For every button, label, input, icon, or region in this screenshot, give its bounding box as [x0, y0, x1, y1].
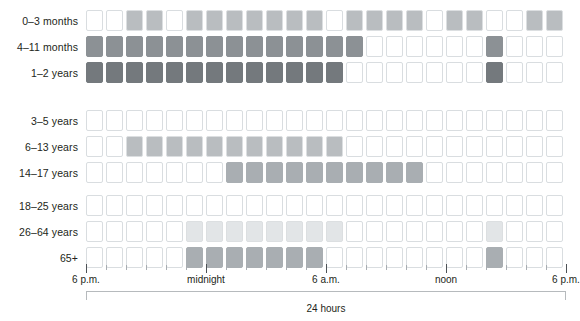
row-label: 3–5 years	[0, 108, 78, 134]
sleep-cell	[486, 162, 503, 183]
row-label: 0–3 months	[0, 8, 78, 34]
axis-tick-minor	[506, 265, 507, 270]
sleep-cell	[486, 36, 503, 57]
sleep-cell	[106, 62, 123, 83]
sleep-cell	[426, 221, 443, 242]
sleep-cell	[506, 195, 523, 216]
sleep-cell	[346, 62, 363, 83]
age-group-infants: 0–3 months4–11 months1–2 years	[0, 8, 575, 86]
row-label: 26–64 years	[0, 219, 78, 245]
sleep-cell	[546, 162, 563, 183]
sleep-cell	[326, 195, 343, 216]
sleep-cell	[426, 195, 443, 216]
axis-tick-minor	[166, 265, 167, 270]
sleep-cell	[106, 162, 123, 183]
sleep-cell	[166, 195, 183, 216]
sleep-cell	[546, 10, 563, 31]
sleep-cell	[186, 62, 203, 83]
sleep-cell	[286, 36, 303, 57]
sleep-cell	[86, 136, 103, 157]
sleep-cell	[206, 195, 223, 216]
sleep-cell	[446, 110, 463, 131]
row-cells	[86, 162, 567, 184]
sleep-cell	[506, 110, 523, 131]
sleep-cell	[346, 36, 363, 57]
sleep-cell	[206, 162, 223, 183]
sleep-cell	[366, 162, 383, 183]
sleep-cell	[506, 221, 523, 242]
sleep-cell	[386, 36, 403, 57]
sleep-cell	[166, 162, 183, 183]
row-cells	[86, 136, 567, 158]
sleep-cell	[406, 36, 423, 57]
sleep-cell	[146, 10, 163, 31]
sleep-cell	[186, 36, 203, 57]
sleep-cell	[526, 36, 543, 57]
sleep-cell	[546, 221, 563, 242]
sleep-cell	[106, 136, 123, 157]
sleep-cell	[146, 136, 163, 157]
sleep-cell	[286, 136, 303, 157]
sleep-cell	[86, 36, 103, 57]
sleep-cell	[406, 10, 423, 31]
sleep-cell	[106, 221, 123, 242]
sleep-cell	[446, 62, 463, 83]
sleep-cell	[386, 10, 403, 31]
sleep-cell	[306, 221, 323, 242]
sleep-cell	[546, 136, 563, 157]
sleep-cell	[346, 221, 363, 242]
sleep-cell	[246, 195, 263, 216]
sleep-cell	[546, 195, 563, 216]
sleep-cell	[86, 162, 103, 183]
sleep-cell	[306, 10, 323, 31]
sleep-cell	[446, 136, 463, 157]
axis-tick-label: midnight	[187, 274, 225, 285]
sleep-cell	[206, 36, 223, 57]
sleep-cell	[506, 162, 523, 183]
sleep-cell	[486, 110, 503, 131]
sleep-cell	[146, 221, 163, 242]
sleep-cell	[166, 10, 183, 31]
sleep-cell	[346, 10, 363, 31]
sleep-cell	[146, 110, 163, 131]
sleep-cell	[106, 195, 123, 216]
sleep-cell	[286, 62, 303, 83]
sleep-cell	[146, 62, 163, 83]
sleep-cell	[206, 136, 223, 157]
sleep-cell	[446, 221, 463, 242]
sleep-cell	[386, 110, 403, 131]
sleep-cell	[246, 221, 263, 242]
sleep-cell	[526, 62, 543, 83]
chart-row: 3–5 years	[0, 108, 575, 134]
sleep-cell	[266, 136, 283, 157]
axis-tick-minor	[286, 265, 287, 270]
sleep-cell	[466, 195, 483, 216]
sleep-cell	[226, 221, 243, 242]
sleep-cell	[326, 162, 343, 183]
sleep-cell	[246, 110, 263, 131]
chart-row: 26–64 years	[0, 219, 575, 245]
axis-tick-minor	[426, 265, 427, 270]
sleep-cell	[286, 195, 303, 216]
sleep-cell	[426, 136, 443, 157]
sleep-cell	[266, 110, 283, 131]
sleep-cell	[266, 195, 283, 216]
sleep-cell	[406, 136, 423, 157]
time-axis: 6 p.m.midnight6 a.m.noon6 p.m. 24 hours	[0, 264, 575, 321]
sleep-cell	[326, 62, 343, 83]
sleep-cell	[526, 10, 543, 31]
sleep-cell	[286, 10, 303, 31]
axis-tick-labels: 6 p.m.midnight6 a.m.noon6 p.m.	[0, 274, 575, 288]
sleep-cell	[266, 221, 283, 242]
axis-tick-minor	[346, 265, 347, 270]
sleep-cell	[166, 36, 183, 57]
sleep-cell	[446, 36, 463, 57]
sleep-cell	[466, 36, 483, 57]
sleep-cell	[186, 221, 203, 242]
sleep-cell	[446, 195, 463, 216]
sleep-cell	[206, 62, 223, 83]
sleep-cell	[166, 62, 183, 83]
sleep-cell	[126, 221, 143, 242]
sleep-cell	[166, 136, 183, 157]
sleep-cell	[306, 195, 323, 216]
